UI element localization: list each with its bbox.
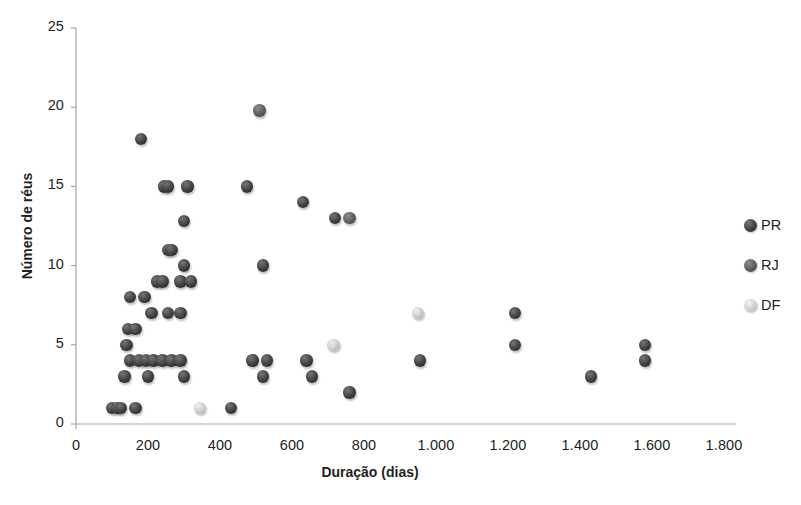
- data-point[interactable]: [257, 259, 269, 271]
- data-point[interactable]: [246, 354, 258, 366]
- x-tick-label: 1.000: [401, 437, 471, 453]
- data-point[interactable]: [181, 180, 193, 192]
- data-point[interactable]: [120, 339, 132, 351]
- legend-item-rj[interactable]: RJ: [744, 245, 800, 285]
- data-point[interactable]: [639, 339, 651, 351]
- y-tick-label: 15: [30, 176, 64, 192]
- legend-item-df[interactable]: DF: [744, 285, 800, 325]
- data-point[interactable]: [165, 244, 177, 256]
- data-point[interactable]: [261, 354, 273, 366]
- data-point[interactable]: [156, 275, 168, 287]
- data-point[interactable]: [178, 370, 190, 382]
- legend-item-pr[interactable]: PR: [744, 205, 800, 245]
- data-point[interactable]: [306, 370, 318, 382]
- data-point[interactable]: [300, 354, 312, 366]
- data-point[interactable]: [253, 104, 265, 116]
- data-point[interactable]: [257, 370, 269, 382]
- legend-swatch-icon: [744, 259, 757, 272]
- x-tick-label: 1.600: [617, 437, 687, 453]
- data-point[interactable]: [585, 370, 597, 382]
- chart-axes: [0, 0, 801, 505]
- legend-swatch-icon: [744, 299, 757, 312]
- data-point[interactable]: [142, 370, 154, 382]
- x-tick-label: 600: [257, 437, 327, 453]
- y-tick-label: 5: [30, 335, 64, 351]
- legend-label: PR: [761, 218, 781, 233]
- data-point[interactable]: [129, 402, 141, 414]
- legend-swatch-icon: [744, 219, 757, 232]
- x-axis-title: Duração (dias): [0, 464, 740, 480]
- data-point[interactable]: [162, 180, 174, 192]
- x-tick-label: 800: [329, 437, 399, 453]
- data-point[interactable]: [343, 212, 355, 224]
- data-point[interactable]: [327, 339, 339, 351]
- scatter-chart: 0510152025 02004006008001.0001.2001.4001…: [0, 0, 801, 505]
- data-point[interactable]: [414, 354, 426, 366]
- data-point[interactable]: [118, 370, 130, 382]
- x-tick-label: 1.400: [545, 437, 615, 453]
- x-tick-label: 0: [41, 437, 111, 453]
- x-tick-label: 200: [113, 437, 183, 453]
- y-tick-label: 25: [30, 18, 64, 34]
- x-tick-label: 400: [185, 437, 255, 453]
- chart-legend: PRRJDF: [744, 205, 800, 325]
- y-tick-label: 10: [30, 256, 64, 272]
- legend-label: DF: [761, 298, 780, 313]
- data-point[interactable]: [129, 323, 141, 335]
- x-tick-label: 1.200: [473, 437, 543, 453]
- y-tick-label: 0: [30, 414, 64, 430]
- data-point[interactable]: [178, 259, 190, 271]
- data-point[interactable]: [174, 354, 186, 366]
- y-axis-title: Número de réus: [19, 146, 35, 306]
- x-tick-label: 1.800: [689, 437, 759, 453]
- data-point[interactable]: [145, 307, 157, 319]
- data-point[interactable]: [241, 180, 253, 192]
- data-point[interactable]: [138, 291, 150, 303]
- data-point[interactable]: [174, 307, 186, 319]
- data-point[interactable]: [343, 386, 355, 398]
- y-tick-label: 20: [30, 97, 64, 113]
- data-point[interactable]: [185, 275, 197, 287]
- data-point[interactable]: [639, 354, 651, 366]
- legend-label: RJ: [761, 258, 779, 273]
- data-point[interactable]: [135, 133, 147, 145]
